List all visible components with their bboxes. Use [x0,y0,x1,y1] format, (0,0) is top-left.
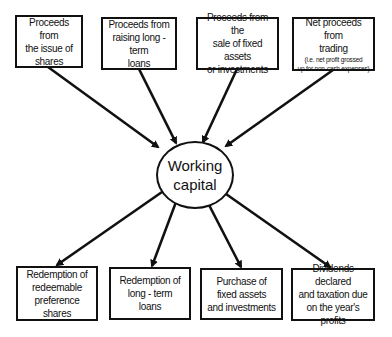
use-text: and taxation due [298,288,367,301]
use-box-dividends-taxation: Dividends declared and taxation due on t… [291,268,375,321]
working-capital-node: Working capital [156,141,234,209]
source-text: Proceeds from the [200,11,275,37]
source-note: up for non-cash expenses) [298,64,370,73]
source-text: the issue of [25,42,73,55]
source-box-trading: Net proceeds from trading (i.e. net prof… [292,17,375,71]
arrow-wc-to-purchase [208,203,241,267]
use-text: Purchase of [216,275,266,288]
center-label: capital [173,175,216,194]
arrow-trading-to-wc [226,70,333,146]
source-text: shares [35,55,63,68]
use-text: redeemable [32,281,82,294]
source-box-long-term-loans: Proceeds from raising long - term loans [101,17,177,70]
use-text: Redemption of [119,274,180,287]
source-text: loans [128,57,150,70]
use-text: on the year's profits [295,301,371,327]
use-box-loan-redemption: Redemption of long - term loans [109,267,191,320]
arrow-wc-to-loan-redemption [152,202,176,266]
use-text: Redemption of [26,268,87,281]
use-text: preference [35,294,80,307]
use-text: loans [139,300,161,313]
arrow-assets-to-wc [203,69,237,142]
source-box-share-issue: Proceeds from the issue of shares [15,15,83,68]
source-text: raising long - term [105,31,173,57]
use-text: and investments [207,301,275,314]
source-note: (i.e. net profit grossed [304,55,362,64]
source-text: sale of fixed assets [200,37,275,63]
arrow-loans-to-wc [139,69,176,143]
source-text: Proceeds from [108,18,169,31]
use-box-preference-redemption: Redemption of redeemable preference shar… [16,266,98,321]
use-box-asset-purchase: Purchase of fixed assets and investments [200,268,283,320]
use-text: Dividends declared [295,262,371,288]
use-text: fixed assets [217,288,266,301]
arrow-shares-to-wc [48,67,158,147]
source-text: trading [319,42,347,55]
arrow-wc-to-dividends [226,194,330,267]
source-text: or investments [207,63,268,76]
use-text: shares [43,307,71,320]
arrow-wc-to-preference [57,192,162,265]
source-text: Proceeds from [19,16,79,42]
source-box-asset-sale: Proceeds from the sale of fixed assets o… [196,17,279,70]
center-label: Working [168,156,223,175]
use-text: long - term [128,287,173,300]
source-text: Net proceeds from [296,16,371,42]
